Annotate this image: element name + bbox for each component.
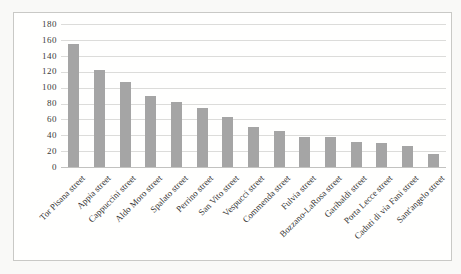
y-axis-tick-label: 180 — [14, 19, 57, 30]
bar — [325, 137, 336, 167]
x-axis-label: Sant'angelo street — [394, 173, 446, 225]
bar — [222, 117, 233, 167]
gridline — [61, 72, 446, 73]
bar — [402, 146, 413, 167]
bar — [299, 137, 310, 167]
chart-frame: 020406080100120140160180Tor Pisana stree… — [13, 12, 452, 261]
y-axis-tick-label: 0 — [14, 162, 57, 173]
y-axis-tick-label: 160 — [14, 35, 57, 46]
bar — [145, 96, 156, 167]
bar — [351, 142, 362, 167]
gridline — [61, 56, 446, 57]
y-axis-tick-label: 100 — [14, 82, 57, 93]
gridline — [61, 40, 446, 41]
bar — [248, 127, 259, 167]
scanned-bar-chart-figure: 020406080100120140160180Tor Pisana stree… — [0, 0, 461, 274]
bar — [376, 143, 387, 167]
bar — [120, 82, 131, 167]
bar — [274, 131, 285, 167]
bar — [197, 108, 208, 168]
y-axis-tick-label: 80 — [14, 98, 57, 109]
y-axis-tick-label: 20 — [14, 146, 57, 157]
bar — [171, 102, 182, 167]
y-axis-tick-label: 120 — [14, 66, 57, 77]
y-axis-tick-label: 60 — [14, 114, 57, 125]
y-axis-tick-label: 40 — [14, 130, 57, 141]
gridline — [61, 24, 446, 25]
bar — [68, 44, 79, 167]
y-axis-tick-label: 140 — [14, 51, 57, 62]
bar — [94, 70, 105, 167]
bar — [428, 154, 439, 167]
x-axis-baseline — [61, 167, 446, 168]
